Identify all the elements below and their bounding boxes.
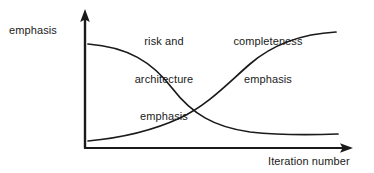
y-axis — [80, 9, 90, 148]
annotation-completeness-line-1: completeness — [216, 35, 320, 48]
annotation-risk-architecture-emphasis: risk and architecture emphasis — [121, 10, 207, 148]
annotation-risk-line-1: risk and — [121, 35, 207, 48]
annotation-completeness-emphasis: completeness emphasis — [216, 10, 320, 110]
annotation-risk-line-2: architecture — [121, 73, 207, 86]
x-axis-label: Iteration number — [268, 155, 350, 168]
annotation-risk-line-3: emphasis — [121, 110, 207, 123]
y-axis-label: emphasis — [9, 24, 57, 37]
annotation-completeness-line-2: emphasis — [216, 73, 320, 86]
emphasis-vs-iteration-figure: emphasis Iteration number risk and archi… — [0, 0, 374, 173]
